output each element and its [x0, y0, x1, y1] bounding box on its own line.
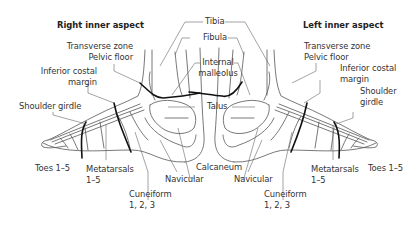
- left-shoulder-girdle-label-line2: girdle: [360, 97, 383, 108]
- left-pelvic-floor-label: Pelvic floor: [304, 52, 349, 63]
- right-inferior-costal-label-line2: margin: [30, 77, 97, 88]
- calcaneum-label: Calcaneum: [196, 162, 242, 173]
- right-shoulder-girdle-label: Shoulder girdle: [19, 101, 81, 112]
- right-pelvic-floor-label: Pelvic floor: [60, 52, 133, 63]
- talus-label: Talus: [207, 101, 227, 112]
- left-cuneiform-label-line2: 1, 2, 3: [264, 200, 290, 211]
- left-transverse-zone-label: Transverse zone: [304, 41, 370, 52]
- tibia-label: Tibia: [205, 16, 224, 27]
- pelvic-floor-line-right: [140, 83, 200, 98]
- left-metatarsals-label-line2: 1–5: [311, 175, 326, 186]
- right-transverse-zone-label: Transverse zone: [60, 41, 133, 52]
- right-metatarsals-label-line2: 1–5: [86, 175, 101, 186]
- left-shoulder-girdle-label-line1: Shoulder: [360, 86, 397, 97]
- internal-malleolus-label-line2: malleolus: [197, 68, 239, 79]
- left-inner-aspect-title: Left inner aspect: [303, 20, 383, 30]
- left-navicular-label: Navicular: [234, 174, 273, 185]
- left-toes-label: Toes 1–5: [368, 163, 403, 174]
- internal-malleolus-label-line1: Internal: [200, 57, 236, 68]
- left-cuneiform-label-line1: Cuneiform: [264, 189, 307, 200]
- left-metatarsals-label-line1: Metatarsals: [311, 164, 359, 175]
- right-inferior-costal-label-line1: Inferior costal: [30, 66, 97, 77]
- left-inferior-costal-label-line1: Inferior costal: [340, 63, 396, 74]
- foot-reflexology-diagram: Right inner aspect Left inner aspect Tib…: [0, 0, 419, 225]
- right-cuneiform-label-line1: Cuneiform: [129, 189, 172, 200]
- left-inferior-costal-label-line2: margin: [340, 74, 369, 85]
- right-toes-label: Toes 1–5: [35, 163, 70, 174]
- fibula-label: Fibula: [203, 32, 227, 43]
- right-metatarsals-label-line1: Metatarsals: [86, 164, 134, 175]
- right-inner-aspect-title: Right inner aspect: [57, 20, 144, 30]
- inferior-costal-line-right: [114, 103, 131, 152]
- right-navicular-label: Navicular: [165, 174, 204, 185]
- inferior-costal-line-left: [291, 103, 307, 152]
- right-cuneiform-label-line2: 1, 2, 3: [129, 200, 155, 211]
